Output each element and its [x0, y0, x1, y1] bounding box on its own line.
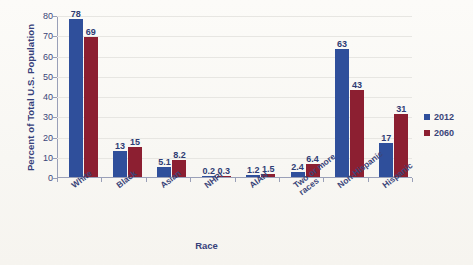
bar-value-label: 15	[130, 137, 140, 147]
bar-group: 5.18.2	[157, 16, 186, 177]
legend-item-2060[interactable]: 2060	[424, 128, 454, 138]
bar-value-label: 8.2	[173, 150, 186, 160]
bar-group: 1315	[113, 16, 142, 177]
x-axis-tick-mark	[279, 178, 280, 182]
bar-value-label: 13	[115, 141, 125, 151]
y-axis-tick-mark	[53, 158, 57, 159]
x-axis-tick-mark	[368, 178, 369, 182]
x-axis-tick-mark	[412, 178, 413, 182]
bar-2012-hispanic[interactable]: 17	[379, 143, 393, 177]
legend-swatch-2060	[424, 130, 430, 136]
x-axis-tick-mark	[235, 178, 236, 182]
x-axis-tick-mark	[101, 178, 102, 182]
bar-value-label: 69	[86, 27, 96, 37]
x-axis-tick-mark	[190, 178, 191, 182]
y-axis-tick-label: 80	[43, 11, 53, 21]
bar-2012-white[interactable]: 78	[69, 19, 83, 177]
bar-value-label: 31	[396, 104, 406, 114]
y-axis-tick-label: 20	[43, 133, 53, 143]
y-axis-tick-mark	[53, 57, 57, 58]
legend-label-2060: 2060	[434, 128, 454, 138]
bar-group: 7869	[69, 16, 98, 177]
bar-value-label: 2.4	[291, 162, 304, 172]
bar-2060-white[interactable]: 69	[84, 37, 98, 177]
bar-chart: Percent of Total U.S. Population 0102030…	[0, 0, 473, 265]
bar-group: 1731	[379, 16, 408, 177]
bar-value-label: 63	[337, 39, 347, 49]
y-axis-tick-label: 50	[43, 72, 53, 82]
y-axis-tick-label: 60	[43, 52, 53, 62]
y-axis-tick-label: 10	[43, 153, 53, 163]
y-axis-tick-label: 70	[43, 31, 53, 41]
legend-item-2012[interactable]: 2012	[424, 112, 454, 122]
bar-group: 2.46.4	[291, 16, 320, 177]
x-axis-title: Race	[0, 240, 413, 251]
legend-label-2012: 2012	[434, 112, 454, 122]
bar-group: 0.20.3	[202, 16, 231, 177]
y-axis-tick-mark	[53, 138, 57, 139]
bar-value-label: 78	[71, 9, 81, 19]
y-axis-tick-mark	[53, 97, 57, 98]
y-axis-tick-label: 40	[43, 92, 53, 102]
plot-area: 01020304050607080786913155.18.20.20.31.2…	[57, 16, 412, 178]
bar-group: 1.21.5	[246, 16, 275, 177]
y-axis-tick-mark	[53, 16, 57, 17]
y-axis-tick-label: 30	[43, 112, 53, 122]
legend-swatch-2012	[424, 114, 430, 120]
bar-value-label: 17	[381, 133, 391, 143]
x-axis-tick-mark	[57, 178, 58, 182]
y-axis-tick-mark	[53, 77, 57, 78]
y-axis-title: Percent of Total U.S. Population	[25, 8, 36, 188]
bar-group: 6343	[335, 16, 364, 177]
bar-value-label: 5.1	[158, 157, 171, 167]
y-axis-tick-mark	[53, 36, 57, 37]
legend: 2012 2060	[424, 112, 454, 144]
y-axis-tick-mark	[53, 117, 57, 118]
x-axis-tick-mark	[146, 178, 147, 182]
bar-value-label: 43	[352, 80, 362, 90]
